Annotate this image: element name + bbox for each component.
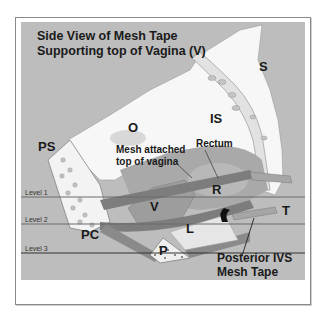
label-mesh-attached-1: Mesh attached — [116, 145, 185, 155]
label-R: R — [212, 183, 221, 196]
label-P: P — [159, 244, 168, 257]
level-2-label: Level 2 — [25, 216, 48, 223]
label-S: S — [259, 60, 268, 73]
label-rectum: Rectum — [196, 139, 233, 149]
label-L: L — [186, 222, 194, 235]
title-line-1: Side View of Mesh Tape — [37, 30, 178, 43]
label-PS: PS — [38, 140, 55, 153]
label-O: O — [128, 121, 138, 134]
label-V: V — [150, 200, 159, 213]
label-mesh-attached-2: top of vagina — [116, 157, 178, 167]
label-T: T — [282, 204, 290, 217]
label-IS: IS — [210, 112, 222, 125]
level-1-label: Level 1 — [25, 189, 48, 196]
label-mesh-tape: Mesh Tape — [217, 266, 278, 278]
title-line-2: Supporting top of Vagina (V) — [37, 45, 206, 58]
label-posterior-ivs: Posterior IVS — [217, 252, 292, 264]
level-3-label: Level 3 — [25, 245, 48, 252]
label-PC: PC — [81, 228, 99, 241]
